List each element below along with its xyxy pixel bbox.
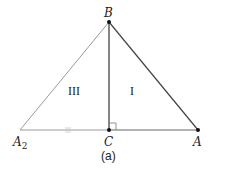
region-label-i: I [130, 84, 134, 98]
point-a [196, 128, 200, 132]
segment-b-a [109, 22, 198, 130]
point-c [107, 128, 111, 132]
label-c: C [104, 135, 113, 149]
triangle-diagram: B C A A2 III I (a) [0, 0, 229, 173]
region-label-iii: III [68, 84, 80, 98]
label-a: A [192, 135, 202, 149]
label-b: B [103, 6, 113, 20]
segment-a2-b [20, 22, 109, 130]
label-a2: A2 [12, 135, 27, 151]
figure-caption: (a) [101, 149, 116, 163]
point-b [107, 20, 111, 24]
